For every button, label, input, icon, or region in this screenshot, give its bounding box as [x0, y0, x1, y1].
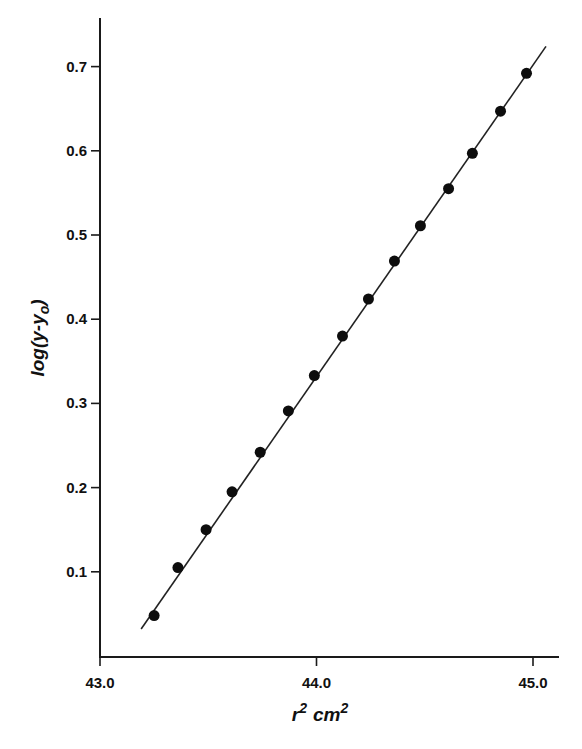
y-tick-label: 0.1 [66, 563, 87, 580]
y-title-suffix: ) [27, 299, 48, 307]
data-point [309, 370, 320, 381]
data-point [255, 447, 266, 458]
data-point [172, 562, 183, 573]
data-point [337, 331, 348, 342]
data-point [389, 256, 400, 267]
y-axis-title: log(y-yo) [27, 299, 52, 376]
data-point [201, 524, 212, 535]
data-point [149, 610, 160, 621]
x-ticks: 43.044.045.0 [85, 657, 547, 691]
data-point [227, 486, 238, 497]
y-tick-label: 0.4 [66, 310, 88, 327]
data-point [467, 148, 478, 159]
y-tick-label: 0.5 [66, 226, 87, 243]
x-axis-title: r2cm2 [292, 700, 349, 725]
axes [99, 18, 559, 657]
y-ticks: 0.10.20.30.40.50.60.7 [66, 58, 100, 580]
data-point [443, 183, 454, 194]
chart-canvas: 43.044.045.0 0.10.20.30.40.50.60.7 r2cm2… [0, 0, 582, 749]
data-point [363, 293, 374, 304]
x-tick-label: 44.0 [302, 674, 331, 691]
y-axis-title-group: log(y-yo) [27, 299, 52, 376]
x-title-sup1: 2 [298, 700, 307, 716]
y-tick-label: 0.6 [66, 142, 87, 159]
y-tick-label: 0.3 [66, 394, 87, 411]
y-tick-label: 0.2 [66, 479, 87, 496]
x-tick-label: 43.0 [85, 674, 114, 691]
y-tick-label: 0.7 [66, 58, 87, 75]
data-point [415, 220, 426, 231]
data-points [149, 68, 532, 621]
x-title-unit: cm [313, 704, 341, 725]
x-tick-label: 45.0 [518, 674, 547, 691]
x-title-sup2: 2 [339, 700, 348, 716]
data-point [495, 106, 506, 117]
data-point [283, 405, 294, 416]
y-title-prefix: log(y-y [27, 313, 48, 377]
data-point [521, 68, 532, 79]
